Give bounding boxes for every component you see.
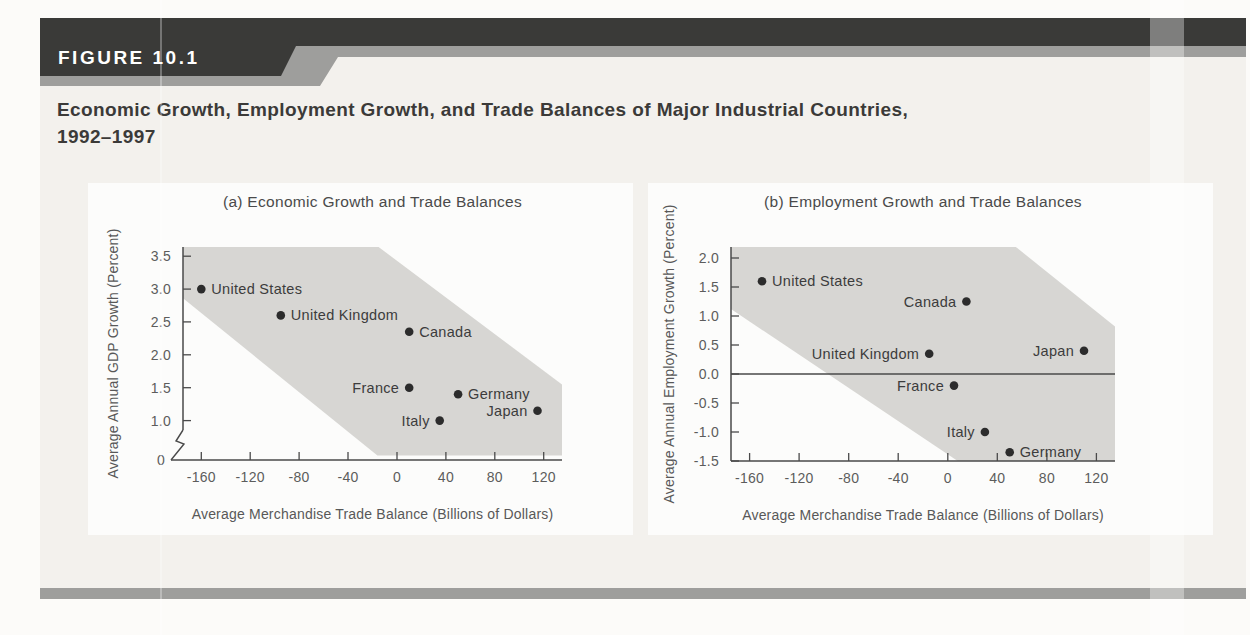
- data-point: [197, 285, 206, 294]
- y-tick-label: 1.0: [151, 413, 171, 429]
- y-tick-label: 0.5: [699, 337, 719, 353]
- data-point: [925, 349, 934, 358]
- y-tick-label: 1.0: [699, 308, 719, 324]
- point-label: United States: [211, 281, 302, 297]
- x-tick-label: 40: [438, 469, 454, 485]
- data-point: [405, 383, 414, 392]
- scanned-textbook-page: FIGURE 10.1 Economic Growth, Employment …: [0, 0, 1250, 635]
- point-label: Italy: [947, 424, 976, 440]
- scatter-chart-employment-growth: 2.01.51.00.50.0-0.5-1.0-1.5-160-120-80-4…: [648, 183, 1213, 535]
- scatter-chart-economic-growth: 03.53.02.52.01.51.0-160-120-80-400408012…: [88, 183, 633, 535]
- x-tick-label: 80: [487, 469, 503, 485]
- figure-title-line2: 1992–1997: [57, 123, 1207, 150]
- y-tick-label: -0.5: [694, 395, 719, 411]
- data-point: [405, 328, 414, 337]
- figure-title-line1: Economic Growth, Employment Growth, and …: [57, 96, 1207, 123]
- y-tick-label: 2.0: [151, 347, 171, 363]
- point-label: Japan: [1033, 343, 1074, 359]
- point-label: Japan: [486, 403, 527, 419]
- point-label: United Kingdom: [291, 307, 398, 323]
- point-label: Canada: [904, 294, 957, 310]
- data-point: [962, 297, 971, 306]
- point-label: Italy: [402, 413, 431, 429]
- y-axis-caption: Average Annual Employment Growth (Percen…: [661, 204, 677, 503]
- y-tick-label: 3.0: [151, 281, 171, 297]
- data-point: [1080, 347, 1089, 356]
- point-label: Germany: [468, 386, 530, 402]
- axis-break-zigzag: [171, 430, 184, 460]
- x-axis-caption: Average Merchandise Trade Balance (Billi…: [192, 506, 554, 522]
- figure-title: Economic Growth, Employment Growth, and …: [57, 96, 1207, 150]
- point-label: France: [897, 378, 944, 394]
- x-tick-label: 120: [1084, 470, 1108, 486]
- data-point: [533, 406, 542, 415]
- y-tick-label: 0.0: [699, 366, 719, 382]
- x-tick-label: -40: [888, 470, 909, 486]
- x-tick-label: -160: [187, 469, 216, 485]
- point-label: United States: [772, 273, 863, 289]
- y-tick-label: -1.0: [694, 424, 719, 440]
- x-tick-label: -80: [289, 469, 310, 485]
- y-tick-label: 2.0: [699, 250, 719, 266]
- y-axis-caption: Average Annual GDP Growth (Percent): [105, 228, 121, 478]
- x-tick-label: -160: [735, 470, 764, 486]
- data-point: [950, 381, 959, 390]
- y-tick-label: 2.5: [151, 314, 171, 330]
- figure-bottom-rule: [40, 588, 1246, 599]
- x-tick-label: 0: [393, 469, 401, 485]
- data-point: [981, 428, 990, 437]
- point-label: United Kingdom: [812, 346, 919, 362]
- x-tick-label: -120: [784, 470, 813, 486]
- data-point: [435, 416, 444, 425]
- chart-panel-a: 03.53.02.52.01.51.0-160-120-80-400408012…: [88, 183, 633, 535]
- x-tick-label: 40: [989, 470, 1005, 486]
- figure-label: FIGURE 10.1: [58, 47, 200, 68]
- chart-panel-b: 2.01.51.00.50.0-0.5-1.0-1.5-160-120-80-4…: [648, 183, 1213, 535]
- x-tick-label: 0: [944, 470, 952, 486]
- x-tick-label: -80: [838, 470, 859, 486]
- x-tick-label: 80: [1039, 470, 1055, 486]
- y-tick-label: -1.5: [694, 453, 719, 469]
- shaded-band: [183, 247, 562, 455]
- x-axis-caption: Average Merchandise Trade Balance (Billi…: [742, 507, 1104, 523]
- data-point: [277, 311, 286, 320]
- y-tick-label: 1.5: [151, 380, 171, 396]
- point-label: France: [352, 380, 399, 396]
- figure-header: FIGURE 10.1: [40, 16, 1246, 94]
- data-point: [758, 277, 767, 286]
- x-tick-label: 120: [532, 469, 556, 485]
- data-point: [454, 390, 463, 399]
- x-tick-label: -120: [236, 469, 265, 485]
- data-point: [1005, 448, 1014, 457]
- y-zero-label: 0: [157, 452, 165, 468]
- y-tick-label: 1.5: [699, 279, 719, 295]
- point-label: Canada: [419, 324, 472, 340]
- point-label: Germany: [1020, 444, 1082, 460]
- x-tick-label: -40: [337, 469, 358, 485]
- chart-title: (a) Economic Growth and Trade Balances: [223, 193, 522, 210]
- y-tick-label: 3.5: [151, 248, 171, 264]
- chart-title: (b) Employment Growth and Trade Balances: [764, 193, 1082, 210]
